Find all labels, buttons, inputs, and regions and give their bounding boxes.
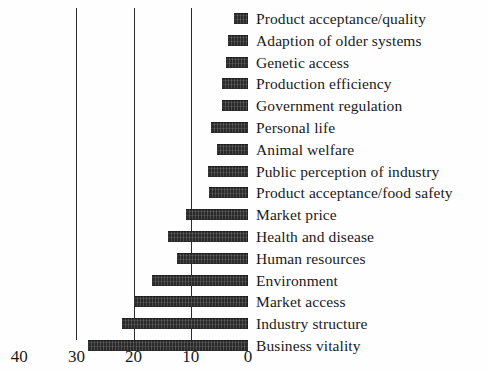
bar — [228, 35, 248, 46]
bar-chart: Product acceptance/qualityAdaption of ol… — [0, 0, 488, 371]
category-label: Adaption of older systems — [256, 30, 422, 52]
bar-row — [0, 270, 250, 292]
bar-row — [0, 95, 250, 117]
category-label: Industry structure — [256, 313, 368, 335]
bar — [168, 231, 248, 242]
category-label: Animal welfare — [256, 139, 354, 161]
x-tick-label-10: 10 — [174, 346, 208, 368]
x-tick-label-20: 20 — [117, 346, 151, 368]
bar — [217, 144, 248, 155]
bar-row — [0, 73, 250, 95]
bar-row — [0, 139, 250, 161]
category-labels: Product acceptance/qualityAdaption of ol… — [256, 0, 488, 345]
x-tick-label-0: 0 — [231, 346, 265, 368]
bar-row — [0, 117, 250, 139]
bar-row — [0, 52, 250, 74]
bar-row — [0, 226, 250, 248]
bar-row — [0, 161, 250, 183]
category-label: Genetic access — [256, 52, 349, 74]
bar — [177, 253, 249, 264]
bar — [222, 100, 248, 111]
x-axis: 403020100 — [0, 344, 250, 371]
bar — [152, 275, 248, 286]
category-label: Human resources — [256, 248, 366, 270]
bar-row — [0, 248, 250, 270]
bar — [226, 57, 248, 68]
bar-row — [0, 204, 250, 226]
category-label: Product acceptance/food safety — [256, 182, 453, 204]
bar — [208, 166, 248, 177]
bar-row — [0, 30, 250, 52]
category-label: Production efficiency — [256, 73, 392, 95]
category-label: Market access — [256, 291, 346, 313]
category-label: Personal life — [256, 117, 335, 139]
bar — [186, 209, 248, 220]
category-label: Public perception of industry — [256, 161, 439, 183]
category-label: Environment — [256, 270, 338, 292]
bar-row — [0, 182, 250, 204]
bar — [134, 296, 248, 307]
category-label: Market price — [256, 204, 337, 226]
bar-row — [0, 291, 250, 313]
x-tick-label-40: 40 — [2, 346, 36, 368]
bar-row — [0, 313, 250, 335]
bar-row — [0, 8, 250, 30]
category-label: Government regulation — [256, 95, 402, 117]
x-tick-label-30: 30 — [59, 346, 93, 368]
bar — [211, 122, 248, 133]
bar — [122, 318, 248, 329]
category-label: Business vitality — [256, 335, 361, 357]
plot-area — [0, 0, 250, 345]
bar — [222, 78, 248, 89]
bar — [209, 187, 248, 198]
category-label: Health and disease — [256, 226, 374, 248]
bar — [234, 13, 248, 24]
category-label: Product acceptance/quality — [256, 8, 426, 30]
